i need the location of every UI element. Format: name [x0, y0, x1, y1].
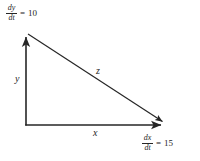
fraction-dy-dt: dy dt — [6, 4, 17, 22]
fraction-denominator: dt — [7, 14, 15, 23]
hypotenuse-arrow — [28, 34, 163, 122]
fraction-numerator: dy — [7, 4, 17, 13]
equals-sign: = — [20, 9, 25, 18]
label-x: x — [93, 128, 97, 138]
figure-canvas: y x z dy dt = 10 dx dt = 15 — [0, 0, 200, 161]
label-z: z — [96, 66, 100, 76]
rate-dy-value: 10 — [28, 9, 37, 18]
rate-dx-dt-equation: dx dt = 15 — [142, 134, 173, 152]
equals-sign: = — [156, 139, 161, 148]
rate-dy-dt-equation: dy dt = 10 — [6, 4, 37, 22]
rate-dx-value: 15 — [164, 139, 173, 148]
fraction-denominator: dt — [143, 144, 151, 153]
fraction-dx-dt: dx dt — [142, 134, 153, 152]
label-y: y — [15, 74, 19, 84]
fraction-numerator: dx — [143, 134, 153, 143]
